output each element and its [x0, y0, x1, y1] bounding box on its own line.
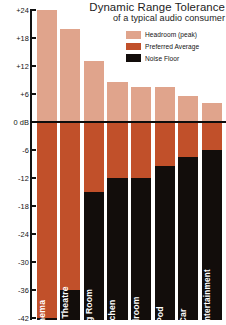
- segment-headroom: [60, 29, 80, 122]
- bar-kitchen: Kitchen: [107, 82, 127, 320]
- bar-home-theatre: Home Theatre: [60, 29, 80, 320]
- bar-car: Car: [178, 96, 198, 320]
- segment-headroom: [155, 87, 175, 122]
- bar-in-flight-entertainment: In Flight Entertainment: [202, 103, 222, 320]
- segment-headroom: [84, 61, 104, 122]
- segment-headroom: [202, 103, 222, 122]
- segment-headroom: [178, 96, 198, 122]
- segment-preferred-average: [37, 122, 57, 320]
- segment-noise-floor: [178, 157, 198, 320]
- segment-headroom: [37, 10, 57, 122]
- zero-db-reference-line: [30, 121, 226, 123]
- segment-noise-floor: [131, 178, 151, 320]
- bar-cinema: Cinema: [37, 10, 57, 320]
- segment-noise-floor: [37, 318, 57, 320]
- segment-noise-floor: [60, 290, 80, 320]
- segment-noise-floor: [155, 166, 175, 320]
- segment-headroom: [131, 87, 151, 122]
- bar-living-room: Living Room: [84, 61, 104, 320]
- segment-noise-floor: [107, 178, 127, 320]
- segment-headroom: [107, 82, 127, 122]
- segment-noise-floor: [84, 192, 104, 320]
- segment-noise-floor: [202, 150, 222, 320]
